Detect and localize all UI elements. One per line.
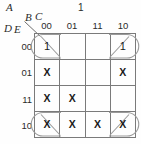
column-header-11-2: 11	[85, 21, 110, 31]
cell-value: X	[44, 67, 51, 78]
row-header-00-0: 00	[8, 42, 32, 52]
top-group-label: 1	[78, 3, 84, 13]
cell-value: X	[119, 67, 126, 78]
kmap-cell-r3-c3[interactable]: X	[111, 112, 136, 138]
cell-value: X	[69, 93, 76, 104]
cell-value: X	[69, 119, 76, 130]
variable-label-e: E	[14, 24, 21, 35]
kmap-cell-r2-c1[interactable]: X	[60, 86, 85, 112]
kmap-cell-r1-c0[interactable]: X	[35, 60, 60, 86]
column-header-01-1: 01	[60, 21, 85, 31]
cell-value: X	[44, 119, 51, 130]
kmap-cell-r2-c0[interactable]: X	[35, 86, 60, 112]
kmap-grid: 11XXXXXXXX	[34, 33, 136, 138]
kmap-cell-r0-c3[interactable]: 1	[111, 34, 136, 60]
kmap-cell-r1-c2[interactable]	[86, 60, 111, 86]
kmap-cell-r2-c2[interactable]	[86, 86, 111, 112]
kmap-cell-r0-c1[interactable]	[60, 34, 85, 60]
row-header-01-1: 01	[8, 68, 32, 78]
kmap-cell-r3-c0[interactable]: X	[35, 112, 60, 138]
row-header-10-3: 10	[8, 121, 32, 131]
variable-label-a: A	[6, 2, 13, 13]
row-header-11-2: 11	[8, 95, 32, 105]
cell-value: 1	[120, 41, 126, 52]
kmap-cell-r0-c2[interactable]	[86, 34, 111, 60]
column-header-00-0: 00	[34, 21, 59, 31]
cell-value: X	[119, 119, 126, 130]
kmap-cell-r0-c0[interactable]: 1	[35, 34, 60, 60]
kmap-cell-r3-c1[interactable]: X	[60, 112, 85, 138]
variable-label-d: D	[4, 23, 12, 34]
karnaugh-map-diagram: A B C D E 1 00011110 00011110 11XXXXXXXX	[0, 0, 141, 144]
column-header-10-3: 10	[111, 21, 136, 31]
variable-label-b: B	[25, 12, 32, 23]
cell-value: 1	[44, 41, 50, 52]
kmap-cell-r1-c1[interactable]	[60, 60, 85, 86]
cell-value: X	[44, 93, 51, 104]
cell-value: X	[94, 119, 101, 130]
kmap-cell-r3-c2[interactable]: X	[86, 112, 111, 138]
kmap-cell-r1-c3[interactable]: X	[111, 60, 136, 86]
kmap-cell-r2-c3[interactable]	[111, 86, 136, 112]
